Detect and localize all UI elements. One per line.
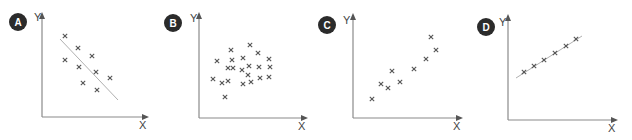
data-point-x-marker — [90, 54, 94, 58]
data-point-x-marker — [215, 59, 219, 63]
data-point-x-marker — [241, 56, 245, 60]
data-point-x-marker — [226, 66, 230, 70]
data-point-x-marker — [267, 57, 271, 61]
data-point-x-marker — [211, 77, 215, 81]
data-point-x-marker — [268, 65, 272, 69]
data-point-x-marker — [94, 70, 98, 74]
data-point-x-marker — [223, 95, 227, 99]
data-point-x-marker — [258, 76, 262, 80]
data-point-x-marker — [226, 79, 230, 83]
panel-badge-label: D — [482, 22, 489, 33]
x-axis-label: X — [608, 122, 616, 134]
trend-line — [516, 36, 582, 78]
data-point-x-marker — [553, 51, 557, 55]
data-point-x-marker — [379, 82, 383, 86]
trend-line — [60, 39, 118, 100]
data-point-x-marker — [256, 51, 260, 55]
y-axis-label: Y — [499, 16, 507, 28]
data-point-x-marker — [267, 75, 271, 79]
data-point-x-marker — [220, 81, 224, 85]
x-axis-label: X — [139, 119, 147, 131]
y-axis-label: Y — [190, 12, 198, 24]
panel-badge-label: C — [323, 20, 330, 31]
scatter-plots-figure: AYXBYXCYXDYX — [0, 0, 632, 140]
data-point-x-marker — [390, 69, 394, 73]
data-point-x-marker — [429, 35, 433, 39]
data-point-x-marker — [230, 58, 234, 62]
panel-badge-label: B — [169, 18, 176, 29]
panel-badge-label: A — [14, 17, 21, 28]
data-point-x-marker — [108, 76, 112, 80]
data-point-x-marker — [63, 58, 67, 62]
data-point-x-marker — [424, 57, 428, 61]
data-point-x-marker — [564, 44, 568, 48]
y-axis-label: Y — [343, 14, 351, 26]
data-point-x-marker — [434, 48, 438, 52]
data-point-x-marker — [249, 80, 253, 84]
scatter-panel-d: DYX — [477, 14, 618, 134]
data-point-x-marker — [370, 97, 374, 101]
scatter-panel-c: CYX — [318, 13, 463, 132]
data-point-x-marker — [77, 65, 81, 69]
data-point-x-marker — [246, 73, 250, 77]
data-point-x-marker — [247, 64, 251, 68]
data-point-x-marker — [229, 48, 233, 52]
scatter-panel-a: AYX — [9, 11, 149, 131]
data-point-x-marker — [248, 43, 252, 47]
data-point-x-marker — [412, 67, 416, 71]
data-point-x-marker — [63, 34, 67, 38]
data-point-x-marker — [231, 66, 235, 70]
data-point-x-marker — [386, 86, 390, 90]
y-axis-label: Y — [34, 11, 42, 23]
scatter-panel-b: BYX — [164, 12, 308, 132]
data-point-x-marker — [542, 58, 546, 62]
data-point-x-marker — [76, 46, 80, 50]
data-point-x-marker — [257, 65, 261, 69]
y-axis-arrow-icon — [350, 13, 356, 20]
data-point-x-marker — [81, 81, 85, 85]
data-point-x-marker — [398, 80, 402, 84]
data-point-x-marker — [240, 68, 244, 72]
data-point-x-marker — [95, 88, 99, 92]
x-axis-label: X — [298, 120, 306, 132]
x-axis-label: X — [453, 120, 461, 132]
data-point-x-marker — [241, 82, 245, 86]
